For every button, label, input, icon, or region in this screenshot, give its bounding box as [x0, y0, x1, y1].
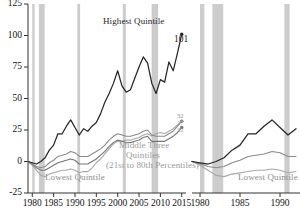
x-tick-marks-right: [200, 193, 280, 197]
y-tick-label: -25: [0, 188, 22, 198]
y-tick-label: 125: [0, 0, 22, 9]
y-tick-marks-left: [24, 4, 28, 193]
annotation-highest-quintile: Highest Quintile: [103, 17, 164, 26]
series-line: [192, 120, 296, 164]
endpoint-labels-stacked: 32 27 32: [177, 113, 184, 133]
recession-band: [284, 4, 289, 193]
recession-bands-right: [200, 4, 290, 193]
annotation-lowest-quintile-right: Lowest Quintile: [238, 173, 298, 182]
data-series-right: [192, 120, 296, 177]
recession-band: [212, 4, 223, 193]
x-tick-label: 1985: [224, 199, 256, 209]
y-tick-label: 100: [0, 31, 22, 41]
income-growth-by-quintile-figure: 1251007550250-25 19801985199019952000200…: [0, 0, 300, 217]
x-tick-marks-left: [32, 193, 181, 197]
chart-panel-left: 1251007550250-25 19801985199019952000200…: [0, 0, 188, 217]
right-panel-svg: [188, 0, 300, 217]
annotation-middle-three-percentiles: (21st to 80th Percentiles): [106, 161, 199, 170]
y-tick-label: 50: [0, 94, 22, 104]
recession-band: [39, 4, 45, 193]
y-tick-label: 0: [0, 157, 22, 167]
endpoint-label-101: 101: [174, 35, 188, 45]
x-tick-label: 1990: [264, 199, 296, 209]
x-tick-label: 1980: [184, 199, 216, 209]
chart-panel-right: 198019851990 Lowest Quintile: [188, 0, 300, 217]
endpoint-label-32b: 32: [177, 127, 184, 134]
annotation-lowest-quintile: Lowest Quintile: [45, 173, 105, 182]
y-tick-label: 75: [0, 62, 22, 72]
y-tick-label: 25: [0, 125, 22, 135]
series-line: [192, 151, 296, 167]
left-panel-svg: [0, 0, 188, 217]
recession-band: [77, 4, 80, 193]
